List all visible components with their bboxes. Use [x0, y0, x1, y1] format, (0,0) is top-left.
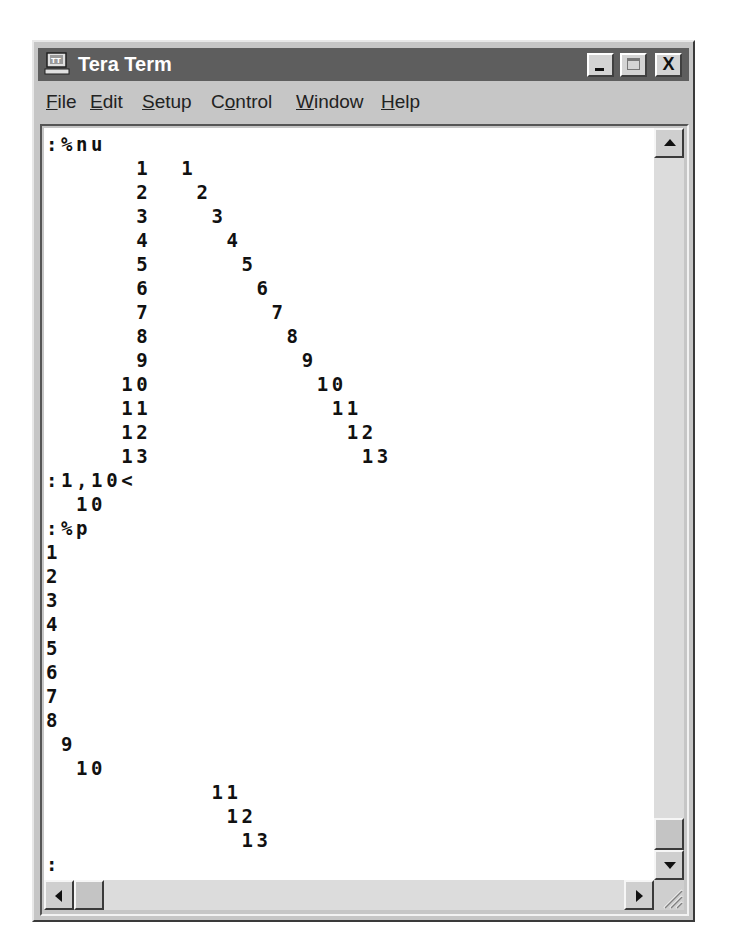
- menu-control[interactable]: Control: [211, 90, 272, 114]
- tera-term-window: TT Tera Term X File Edit Setup Control W…: [32, 40, 695, 922]
- menu-file[interactable]: File: [46, 90, 77, 114]
- right-arrow-icon: [636, 890, 643, 902]
- terminal-line: 2: [46, 564, 61, 588]
- terminal-line: 7 7: [46, 300, 287, 324]
- vertical-scroll-thumb[interactable]: [654, 818, 684, 850]
- scroll-left-button[interactable]: [44, 880, 74, 910]
- terminal-line: 10: [46, 492, 106, 516]
- terminal-line: :: [46, 852, 61, 876]
- terminal-line: 11: [46, 780, 242, 804]
- minimize-button[interactable]: [587, 53, 614, 77]
- horizontal-scrollbar[interactable]: [44, 880, 654, 910]
- menu-bar: File Edit Setup Control Window Help: [38, 82, 689, 122]
- title-bar[interactable]: TT Tera Term X: [38, 48, 689, 81]
- terminal-line: 1: [46, 540, 61, 564]
- terminal-line: :1,10<: [46, 468, 136, 492]
- window-title: Tera Term: [78, 52, 172, 76]
- terminal-line: 1 1: [46, 156, 196, 180]
- terminal-line: 5 5: [46, 252, 257, 276]
- terminal-line: 6: [46, 660, 61, 684]
- svg-text:TT: TT: [51, 57, 61, 65]
- terminal-line: 12 12: [46, 420, 377, 444]
- close-button[interactable]: X: [655, 53, 682, 77]
- terminal-line: :%p: [46, 516, 91, 540]
- scroll-up-button[interactable]: [654, 128, 684, 158]
- scroll-right-button[interactable]: [624, 880, 654, 910]
- terminal-line: 10: [46, 756, 106, 780]
- terminal-line: 9 9: [46, 348, 317, 372]
- resize-grip[interactable]: [654, 880, 684, 910]
- menu-setup[interactable]: Setup: [142, 90, 192, 114]
- left-arrow-icon: [55, 890, 62, 902]
- horizontal-scroll-thumb[interactable]: [74, 880, 104, 910]
- terminal-line: 9: [46, 732, 76, 756]
- terminal-line: 13: [46, 828, 272, 852]
- terminal-line: 7: [46, 684, 61, 708]
- down-arrow-icon: [664, 862, 676, 869]
- terminal-line: 3 3: [46, 204, 226, 228]
- terminal-client-area: :%nu 1 1 2 2 3 3 4 4 5 5 6 6 7 7 8 8 9 9…: [40, 124, 689, 916]
- terminal-line: 8 8: [46, 324, 302, 348]
- terminal-line: 8: [46, 708, 61, 732]
- terminal-line: 12: [46, 804, 257, 828]
- terminal-line: 4: [46, 612, 61, 636]
- terminal-line: 3: [46, 588, 61, 612]
- terminal-line: 13 13: [46, 444, 392, 468]
- up-arrow-icon: [664, 139, 676, 146]
- terminal-line: 2 2: [46, 180, 211, 204]
- minimize-icon: [595, 68, 604, 71]
- resize-grip-icon: [654, 880, 684, 910]
- menu-edit[interactable]: Edit: [90, 90, 123, 114]
- vertical-scrollbar[interactable]: [654, 128, 684, 880]
- terminal-line: 4 4: [46, 228, 242, 252]
- terminal-line: 11 11: [46, 396, 362, 420]
- menu-window[interactable]: Window: [296, 90, 364, 114]
- scroll-down-button[interactable]: [654, 850, 684, 880]
- close-icon: X: [662, 54, 674, 74]
- terminal-line: 10 10: [46, 372, 347, 396]
- terminal-line: :%nu: [46, 132, 106, 156]
- menu-help[interactable]: Help: [381, 90, 420, 114]
- terminal-line: 6 6: [46, 276, 272, 300]
- tera-term-app-icon[interactable]: TT: [44, 52, 70, 76]
- terminal-screen[interactable]: :%nu 1 1 2 2 3 3 4 4 5 5 6 6 7 7 8 8 9 9…: [44, 128, 654, 880]
- maximize-button[interactable]: [620, 53, 647, 77]
- terminal-line: 5: [46, 636, 61, 660]
- maximize-icon: [627, 58, 640, 70]
